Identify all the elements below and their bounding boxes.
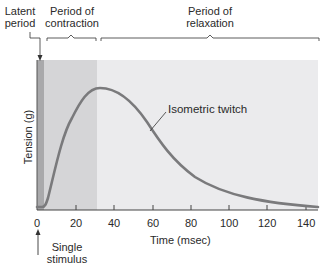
contraction-label-line1: Period of [44,5,100,17]
latent-label-line2: period [2,17,38,29]
stimulus-label-line1: Single [44,241,90,253]
x-tick-0: 0 [34,217,40,229]
latent-period-label: Latent period [2,5,38,29]
x-tick-120: 120 [258,217,276,229]
isometric-twitch-label: Isometric twitch [168,103,247,115]
relaxation-region [97,60,318,210]
relaxation-bracket [101,35,319,41]
twitch-chart [0,0,336,273]
contraction-region [44,60,97,210]
contraction-bracket [47,35,96,41]
latent-region [37,60,44,210]
contraction-period-label: Period of contraction [44,5,100,29]
latent-label-line1: Latent [2,5,38,17]
x-axis-label: Time (msec) [150,234,211,246]
x-tick-60: 60 [147,217,159,229]
x-tick-140: 140 [297,217,315,229]
relaxation-label-line1: Period of [180,5,240,17]
latent-bracket [30,32,40,56]
relaxation-label-line2: relaxation [180,17,240,29]
single-stimulus-label: Single stimulus [44,241,90,265]
relaxation-period-label: Period of relaxation [180,5,240,29]
x-tick-40: 40 [108,217,120,229]
stimulus-arrowhead [36,229,41,235]
x-tick-20: 20 [70,217,82,229]
x-tick-80: 80 [185,217,197,229]
stimulus-label-line2: stimulus [44,253,90,265]
y-axis-label: Tension (g) [22,107,34,167]
contraction-label-line2: contraction [44,17,100,29]
x-tick-100: 100 [220,217,238,229]
